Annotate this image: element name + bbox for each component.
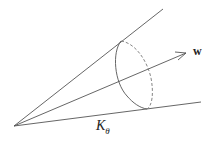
cross-section-front	[115, 41, 147, 109]
cone-upper-edge	[14, 9, 163, 126]
cone-label-base: K	[96, 118, 105, 133]
cone-diagram: w Kθ	[0, 0, 213, 148]
cross-section-back	[121, 41, 152, 109]
cone-label-subscript: θ	[105, 126, 109, 136]
cone-label: Kθ	[96, 118, 110, 136]
arrowhead-icon	[175, 52, 186, 60]
vector-label-w: w	[193, 44, 202, 59]
